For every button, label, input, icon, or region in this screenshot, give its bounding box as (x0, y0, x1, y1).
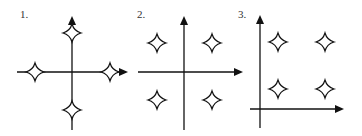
four-point-star-icon (203, 91, 221, 109)
y-axis-arrow-icon (180, 16, 188, 25)
x-axis-arrow-icon (234, 68, 243, 76)
four-point-star-icon (269, 80, 287, 98)
four-point-star-icon (316, 33, 334, 51)
four-point-star-icon (101, 63, 119, 81)
four-point-star-icon (148, 34, 166, 52)
four-point-star-icon (148, 91, 166, 109)
four-point-star-icon (203, 34, 221, 52)
four-point-star-icon (316, 80, 334, 98)
panel-1-label: 1. (20, 8, 28, 20)
four-point-star-icon (269, 33, 287, 51)
four-point-star-icon (26, 63, 44, 81)
four-point-star-icon (63, 101, 81, 119)
four-point-star-icon (63, 24, 81, 42)
panel-3-label: 3. (238, 8, 246, 20)
y-axis-arrow-icon (256, 15, 264, 24)
panel-2-label: 2. (137, 8, 145, 20)
x-axis-arrow-icon (335, 105, 344, 113)
axes-diagram-svg (0, 0, 362, 136)
